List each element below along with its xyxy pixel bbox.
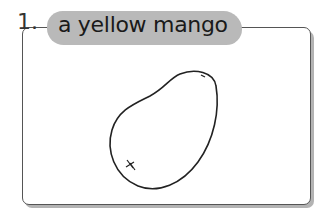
mango-icon: [0, 0, 329, 211]
